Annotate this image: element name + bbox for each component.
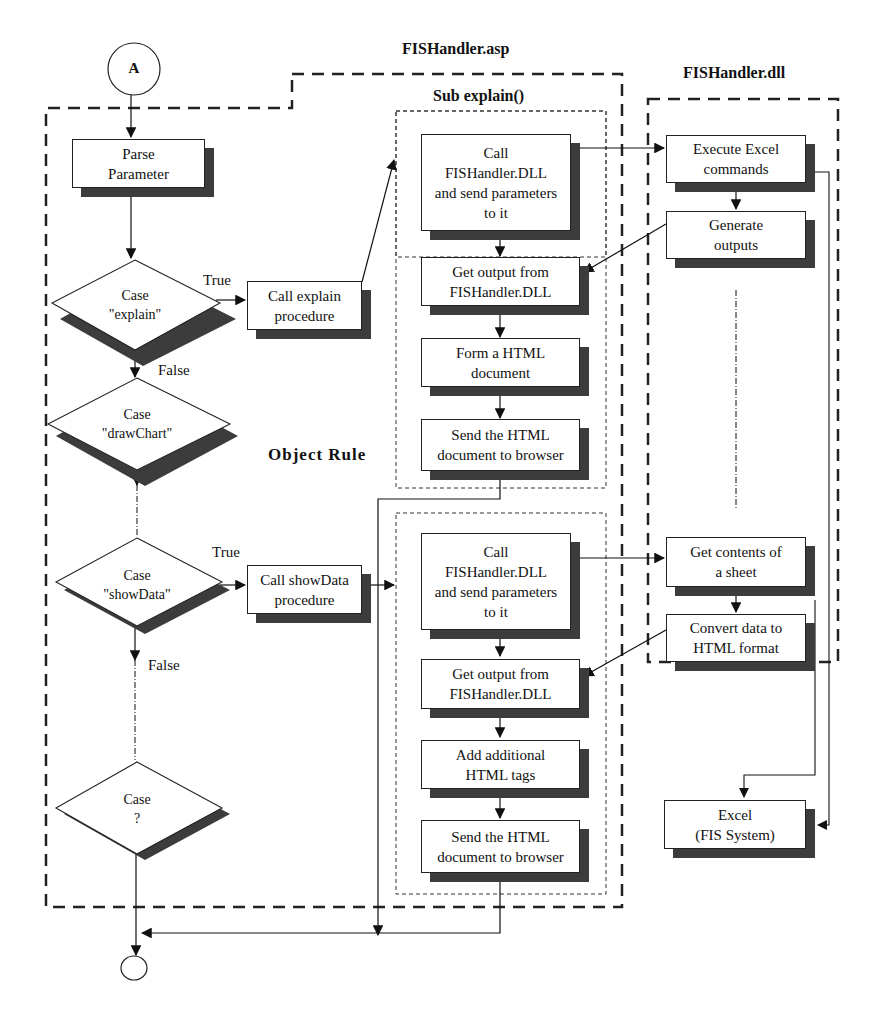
showdata-get-output-box[interactable]: Get output from FISHandler.DLL [421,659,580,709]
decision-explain[interactable]: Case "explain" [80,286,190,324]
sub-explain-title: Sub explain() [433,87,524,105]
edge-label-showdata-true: True [212,543,240,562]
flowchart-canvas: FISHandler.asp FISHandler.dll Sub explai… [0,0,884,1018]
dll-convert-data-box[interactable]: Convert data to HTML format [666,614,806,662]
explain-get-output-box[interactable]: Get output from FISHandler.DLL [421,257,580,306]
edge-label-explain-false: False [158,361,190,380]
dll-get-contents-box[interactable]: Get contents of a sheet [666,537,806,587]
edge-label-explain-true: True [203,271,231,290]
dll-execute-excel-box[interactable]: Execute Excel commands [666,135,806,183]
decision-unknown[interactable]: Case ? [82,790,192,828]
decision-drawchart[interactable]: Case "drawChart" [82,405,192,443]
explain-form-html-box[interactable]: Form a HTML document [421,338,580,387]
call-explain-box[interactable]: Call explain procedure [247,281,362,330]
dll-generate-outputs-box[interactable]: Generate outputs [666,211,806,259]
parse-parameter-box[interactable]: Parse Parameter [72,139,205,188]
excel-fis-system-box[interactable]: Excel (FIS System) [664,800,806,849]
end-connector-shape [121,956,147,980]
explain-send-html-box[interactable]: Send the HTML document to browser [421,419,580,471]
decision-showdata[interactable]: Case "showData" [82,566,192,604]
showdata-add-tags-box[interactable]: Add additional HTML tags [421,740,580,789]
edge-label-showdata-false: False [148,656,180,675]
showdata-send-html-box[interactable]: Send the HTML document to browser [421,820,580,873]
start-connector-label: A [120,59,148,78]
showdata-call-dll-box[interactable]: Call FISHandler.DLL and send parameters … [421,533,571,630]
explain-call-dll-box[interactable]: Call FISHandler.DLL and send parameters … [421,134,571,231]
object-rule-title: Object Rule [268,445,366,465]
call-showdata-box[interactable]: Call showData procedure [247,565,362,614]
asp-title: FISHandler.asp [402,40,509,58]
dll-title: FISHandler.dll [683,64,785,82]
